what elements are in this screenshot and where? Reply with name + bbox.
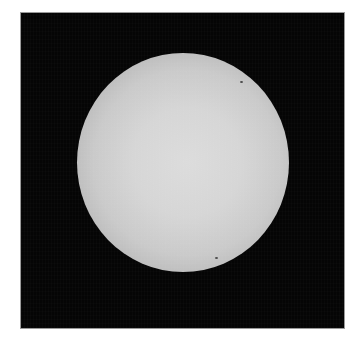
image-frame <box>20 12 345 329</box>
sunspot-1 <box>240 81 243 83</box>
sunspot-2 <box>215 257 218 259</box>
solar-disk <box>77 53 289 272</box>
